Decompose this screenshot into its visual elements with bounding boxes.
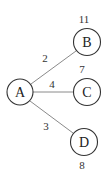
edge-weight-a-d: 3: [43, 120, 49, 132]
node-c-label: C: [82, 85, 91, 100]
node-b: B 11: [74, 13, 101, 56]
node-d: D 8: [71, 129, 98, 172]
edge-weight-a-b: 2: [42, 52, 48, 64]
node-b-label: B: [82, 35, 91, 50]
node-a-label: A: [15, 85, 26, 100]
node-d-label: D: [79, 135, 89, 150]
edge-weight-a-c: 4: [49, 78, 55, 90]
edge-a-d: [30, 101, 73, 133]
node-d-value: 8: [79, 159, 85, 171]
node-b-value: 11: [79, 13, 90, 25]
node-a: A: [7, 79, 33, 105]
node-c-value: 7: [79, 63, 85, 75]
node-c: C 7: [74, 63, 101, 106]
graph-diagram: 2 4 3 A B 11 C 7 D 8: [0, 0, 102, 179]
